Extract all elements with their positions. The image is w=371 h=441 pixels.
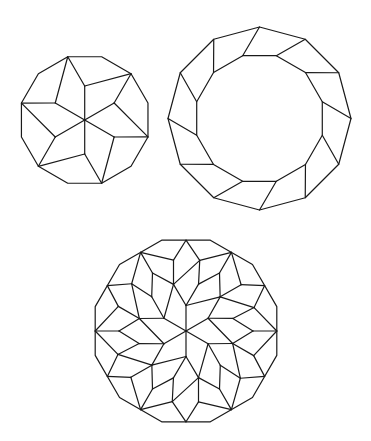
edge-line [186, 240, 200, 260]
star-spoke [85, 120, 114, 137]
edge-line [233, 331, 253, 344]
edge-line [118, 306, 139, 318]
edge-line [208, 344, 220, 366]
edge-line [220, 389, 232, 410]
edge-line [174, 240, 187, 260]
star-spoke [164, 318, 186, 331]
edge-line [174, 284, 187, 305]
star-spoke [55, 120, 84, 137]
edge-line [199, 344, 209, 378]
edge-line [220, 273, 221, 297]
edge-line [152, 297, 164, 319]
ring-divider [214, 181, 243, 197]
edge-line [220, 365, 221, 389]
edge-line [164, 284, 174, 318]
edge-line [199, 378, 220, 389]
edge-line [107, 284, 131, 286]
edge-line [200, 252, 232, 260]
edge-line [233, 344, 241, 379]
figure-rosette-dodecagon [95, 240, 277, 422]
star-edge [21, 103, 55, 137]
edge-line [153, 273, 174, 284]
edge-line [233, 308, 254, 319]
edge-line [139, 319, 164, 344]
star-edge [85, 74, 131, 86]
edge-line [95, 306, 118, 331]
ring-divider [180, 73, 196, 102]
edge-line [172, 378, 173, 402]
edge-line [141, 252, 153, 273]
star-edge [38, 154, 84, 166]
edge-line [141, 252, 174, 260]
edge-line [153, 378, 174, 389]
inner-dodecagon [197, 56, 323, 182]
edge-line [199, 273, 220, 284]
figure-ring-dodecagon [168, 27, 351, 210]
edge-line [119, 331, 139, 344]
edge-line [240, 376, 264, 378]
star-spoke [164, 331, 186, 344]
outer-dodecagon [168, 27, 351, 210]
edge-line [152, 273, 153, 297]
star-edge [85, 154, 102, 183]
edge-line [254, 308, 277, 331]
edge-line [107, 286, 118, 307]
edge-line [186, 357, 199, 378]
edge-line [220, 297, 254, 308]
edge-line [152, 365, 153, 389]
edge-line [172, 378, 198, 402]
edge-line [186, 402, 199, 422]
edge-line [241, 285, 264, 286]
edge-line [107, 354, 118, 376]
edge-line [233, 318, 253, 331]
star-spoke [186, 331, 208, 344]
edge-line [152, 357, 186, 366]
edge-line [254, 356, 265, 377]
tiling-diagram [0, 0, 371, 441]
star-spoke [186, 318, 208, 331]
edge-line [132, 284, 140, 319]
edge-line [172, 402, 186, 422]
edge-line [118, 344, 139, 355]
ring-divider [276, 39, 305, 55]
edge-line [119, 319, 139, 332]
edge-line [107, 376, 130, 377]
edge-line [131, 365, 152, 377]
edge-line [254, 286, 265, 308]
edge-line [208, 318, 233, 343]
star-edge [102, 137, 114, 183]
edge-line [118, 354, 152, 365]
edge-line [199, 260, 200, 284]
star-spoke [85, 103, 114, 120]
star-spoke [55, 103, 84, 120]
edge-line [186, 297, 220, 306]
edge-line [174, 260, 200, 284]
edge-line [220, 285, 241, 297]
star-edge [68, 57, 85, 86]
edge-line [254, 331, 277, 356]
edge-line [95, 331, 118, 354]
star-edge [55, 57, 67, 103]
edge-line [141, 402, 173, 410]
edge-line [199, 402, 232, 410]
star-edge [114, 103, 148, 137]
figure-star-dodecagon [21, 57, 148, 184]
ring-divider [322, 135, 338, 164]
edge-line [233, 344, 254, 356]
